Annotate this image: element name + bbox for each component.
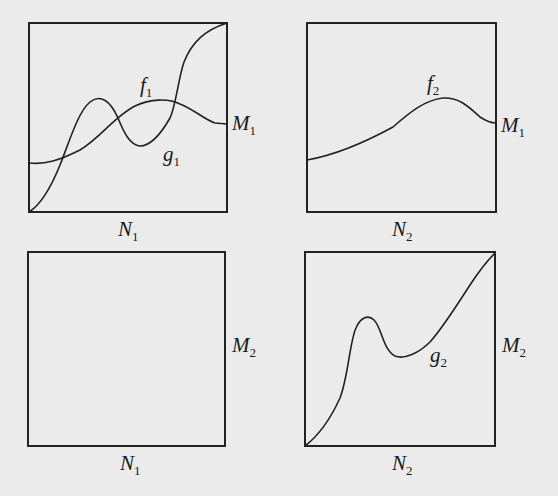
curve-f2 <box>307 98 496 160</box>
curve-g2 <box>305 253 495 446</box>
panel-frame <box>305 252 495 446</box>
label-N2-bottom: N2 <box>391 451 413 478</box>
label-M2-left: M2 <box>231 333 256 360</box>
panel-bottom-right: g2 M2 N2 <box>305 252 526 478</box>
label-N1-top: N1 <box>117 217 139 244</box>
panel-frame <box>307 23 496 212</box>
label-M1-left: M1 <box>231 111 256 138</box>
curve-g1 <box>29 100 227 163</box>
label-f1: f1 <box>140 73 152 100</box>
label-M2-right: M2 <box>501 333 526 360</box>
panel-frame <box>29 23 227 212</box>
label-N2-top: N2 <box>391 217 413 244</box>
label-g1: g1 <box>163 142 180 169</box>
panel-top-right: f2 M1 N2 <box>307 23 525 244</box>
panel-top-left: f1 g1 M1 N1 <box>29 23 256 244</box>
label-g2: g2 <box>430 343 447 370</box>
label-f2: f2 <box>427 71 439 98</box>
panel-frame <box>28 252 225 446</box>
figure-four-panels: f1 g1 M1 N1 f2 M1 N2 M2 N1 g2 M2 N2 <box>0 0 558 496</box>
curve-f1 <box>29 23 227 212</box>
label-M1-right: M1 <box>500 113 525 140</box>
panel-bottom-left: M2 N1 <box>28 252 256 478</box>
label-N1-bottom: N1 <box>119 451 141 478</box>
